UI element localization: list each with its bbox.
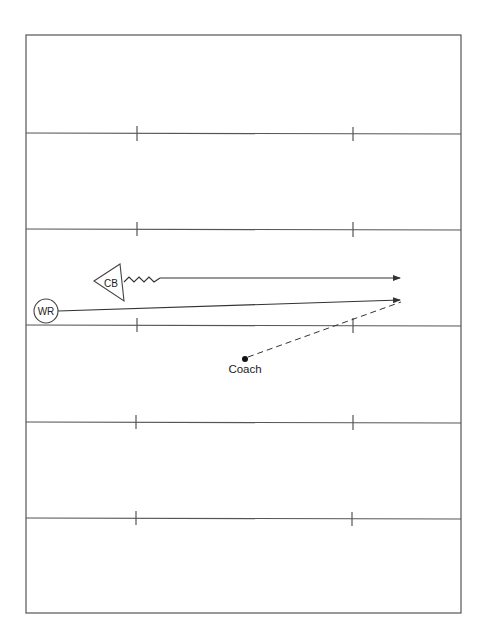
dot-icon [242, 356, 248, 362]
cb-label: CB [104, 278, 118, 289]
coach-label: Coach [228, 363, 261, 375]
football-field-diagram: CB WR Coach [0, 0, 486, 635]
wr-label: WR [38, 306, 55, 317]
yard-line [26, 325, 461, 326]
coach-pass-line [248, 302, 401, 357]
cb-route [124, 277, 400, 282]
yard-line [26, 133, 461, 134]
field-border [26, 35, 461, 613]
wr-route [58, 300, 400, 311]
yard-line [26, 422, 461, 423]
yard-lines [26, 133, 461, 519]
yard-line [26, 229, 461, 230]
coach: Coach [228, 356, 261, 375]
wr-player: WR [34, 299, 58, 323]
yard-line [26, 518, 461, 519]
cb-player: CB [94, 264, 124, 301]
